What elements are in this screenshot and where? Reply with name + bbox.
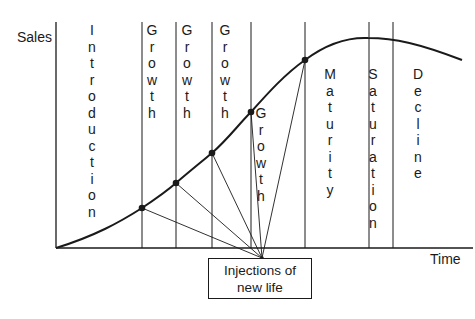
injection-dot xyxy=(209,150,216,157)
y-axis-label: Sales xyxy=(17,30,52,44)
stage-label-saturation: S a t u r a t i o n xyxy=(365,66,381,231)
x-axis-label: Time xyxy=(430,252,461,266)
callout-line-1: Injections of xyxy=(209,262,311,279)
stage-label-growth: G r o w t h xyxy=(144,22,160,121)
injection-dot xyxy=(139,205,146,212)
injection-dot xyxy=(173,180,180,187)
stage-label-decline: D e c l i n e xyxy=(410,66,426,182)
stage-label-growth: G r o w t h xyxy=(217,22,233,121)
stage-label-introduction: I n t r o d u c t i o n xyxy=(84,22,100,220)
injections-callout-box: Injections of new life xyxy=(208,258,312,299)
callout-line-2: new life xyxy=(209,279,311,296)
stage-label-growth: G r o w t h xyxy=(179,22,195,121)
stage-label-growth: G r o w t h xyxy=(253,105,269,204)
stage-label-maturity: M a t u r i t y xyxy=(322,66,338,198)
injection-dot xyxy=(302,57,309,64)
